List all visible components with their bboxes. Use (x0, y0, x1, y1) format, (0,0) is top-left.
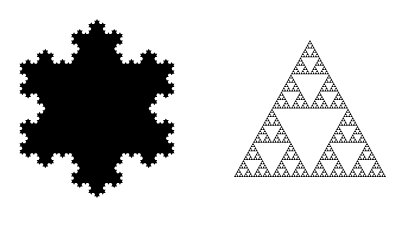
fractal-canvas (0, 0, 403, 230)
sierpinski-triangle (234, 40, 386, 177)
koch-snowflake (19, 19, 174, 198)
